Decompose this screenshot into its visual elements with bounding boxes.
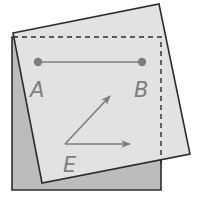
point-b [138,58,146,66]
label-b: B [134,78,148,102]
label-e: E [63,153,77,177]
point-a [34,58,42,66]
diagram-canvas: A B E [0,0,198,205]
geometry-figure: A B E [0,0,198,205]
label-a: A [28,78,44,102]
